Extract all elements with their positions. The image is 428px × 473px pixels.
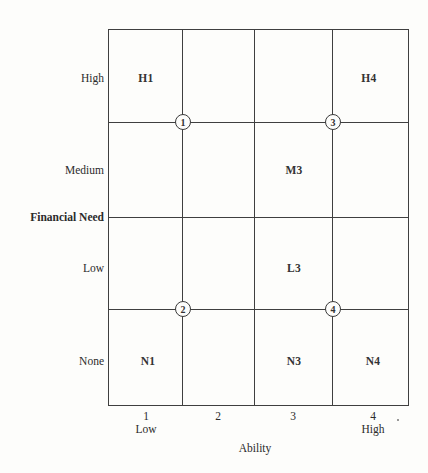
y-axis-title: Financial Need <box>30 211 104 224</box>
grid-hline-financial-need <box>108 217 409 218</box>
column-label-3: 3 <box>290 410 296 423</box>
ability-need-grid-diagram: High Medium Financial Need Low None H1 H… <box>0 0 428 473</box>
row-label-none: None <box>79 355 104 368</box>
cell-label-h1: H1 <box>138 72 153 85</box>
scan-speck <box>397 419 399 421</box>
column-number-2: 2 <box>215 410 221 423</box>
grid-hline-low-none <box>108 309 409 310</box>
cell-label-h4: H4 <box>361 72 376 85</box>
column-label-4: 4 High <box>362 410 385 436</box>
row-label-low: Low <box>83 262 104 275</box>
column-number-3: 3 <box>290 410 296 423</box>
grid-hline-high-medium <box>108 122 409 123</box>
node-1-circle: 1 <box>175 114 191 130</box>
node-2-circle: 2 <box>175 301 191 317</box>
cell-label-n3: N3 <box>287 355 302 368</box>
column-label-1: 1 Low <box>135 410 156 436</box>
row-label-medium: Medium <box>65 164 104 177</box>
grid-top-border <box>108 29 409 30</box>
row-label-high: High <box>81 72 104 85</box>
node-3-circle: 3 <box>325 114 341 130</box>
cell-label-m3: M3 <box>285 164 302 177</box>
x-axis-title: Ability <box>239 442 272 455</box>
node-1-label: 1 <box>181 117 186 128</box>
column-sublabel-low: Low <box>135 423 156 436</box>
column-label-2: 2 <box>215 410 221 423</box>
column-number-1: 1 <box>135 410 156 423</box>
node-3-label: 3 <box>331 117 336 128</box>
node-4-label: 4 <box>331 304 336 315</box>
column-number-4: 4 <box>362 410 385 423</box>
cell-label-n4: N4 <box>366 355 381 368</box>
cell-label-n1: N1 <box>141 355 156 368</box>
column-sublabel-high: High <box>362 423 385 436</box>
grid-bottom-border <box>108 405 409 406</box>
node-4-circle: 4 <box>325 301 341 317</box>
cell-label-l3: L3 <box>287 262 301 275</box>
node-2-label: 2 <box>181 304 186 315</box>
